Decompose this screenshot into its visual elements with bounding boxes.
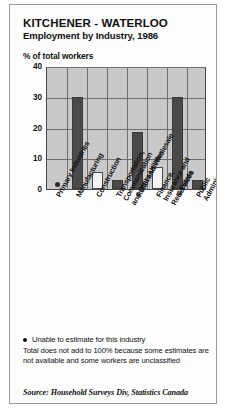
chart-card: KITCHENER - WATERLOO Employment by Indus… xyxy=(9,4,217,404)
y-axis-tick-label: 0 xyxy=(12,185,42,194)
gridline-horizontal xyxy=(47,67,205,68)
y-axis-tick-label: 20 xyxy=(12,124,42,133)
footnotes: Unable to estimate for this industry Tot… xyxy=(23,335,209,366)
y-axis-tick-label: 10 xyxy=(12,154,42,163)
y-axis-tick-label: 40 xyxy=(12,62,42,71)
footnote-total-note: Total does not add to 100% because some … xyxy=(23,346,209,366)
footnote-1-text: Unable to estimate for this industry xyxy=(32,335,145,344)
y-axis-tick-label: 30 xyxy=(12,93,42,102)
source-line: Source: Household Surveys Div, Statistic… xyxy=(23,388,213,397)
footnote-unable-to-estimate: Unable to estimate for this industry xyxy=(23,335,209,345)
dot-marker-icon xyxy=(23,338,27,342)
